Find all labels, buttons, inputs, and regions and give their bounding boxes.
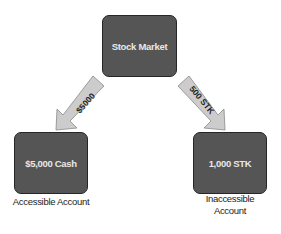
node-stk: 1,000 STK: [193, 132, 267, 194]
node-cash: $5,000 Cash: [14, 132, 88, 194]
node-stk-label: 1,000 STK: [209, 158, 252, 169]
node-stock-market-label: Stock Market: [112, 41, 168, 52]
arrow-market-to-stk: 500 STK: [178, 76, 225, 130]
node-stock-market: Stock Market: [102, 15, 177, 77]
caption-line-2: Account: [190, 205, 270, 217]
node-cash-label: $5,000 Cash: [25, 158, 77, 169]
arrow-market-to-cash: $5000: [56, 76, 104, 130]
caption-accessible-account: Accessible Account: [10, 196, 92, 208]
caption-inaccessible-account: Inaccessible Account: [190, 193, 270, 217]
caption-line-1: Inaccessible: [190, 193, 270, 205]
